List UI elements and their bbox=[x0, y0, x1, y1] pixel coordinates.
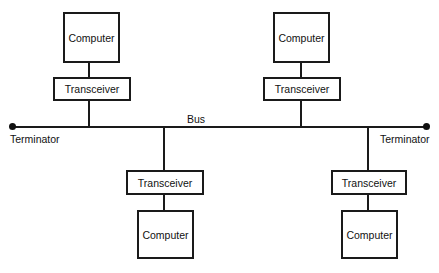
connector-bottom-right-upper bbox=[367, 127, 369, 171]
computer-top-right: Computer bbox=[273, 12, 330, 63]
computer-bottom-right: Computer bbox=[341, 210, 398, 259]
transceiver-bottom-left: Transceiver bbox=[126, 170, 204, 195]
connector-top-left-lower bbox=[88, 100, 90, 127]
terminator-left-dot bbox=[9, 123, 16, 130]
transceiver-bottom-right: Transceiver bbox=[331, 170, 407, 195]
terminator-right-label: Terminator bbox=[380, 133, 430, 145]
transceiver-top-left: Transceiver bbox=[53, 77, 131, 101]
connector-top-left-upper bbox=[88, 62, 90, 78]
connector-bottom-left-lower bbox=[163, 194, 165, 211]
bus-line bbox=[13, 126, 427, 128]
connector-top-right-lower bbox=[300, 100, 302, 127]
connector-top-right-upper bbox=[300, 62, 302, 78]
connector-bottom-left-upper bbox=[163, 127, 165, 171]
computer-top-left: Computer bbox=[63, 12, 120, 63]
connector-bottom-right-lower bbox=[367, 194, 369, 211]
terminator-left-label: Terminator bbox=[10, 133, 60, 145]
terminator-right-dot bbox=[423, 123, 430, 130]
bus-label: Bus bbox=[187, 113, 205, 125]
transceiver-top-right: Transceiver bbox=[263, 77, 341, 101]
computer-bottom-left: Computer bbox=[137, 210, 194, 259]
